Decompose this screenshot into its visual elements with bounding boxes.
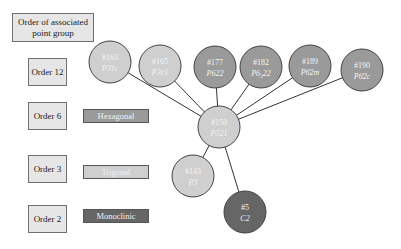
node-symbol: P3̄c1 (151, 68, 168, 77)
node-circle (194, 46, 236, 88)
node-symbol: P3̄1c (101, 64, 119, 73)
node-circle (139, 45, 181, 87)
node-number: #189 (302, 57, 318, 66)
nodes-layer: #163P3̄1c#165P3̄c1#177P622#182P6₃22#189P… (89, 41, 383, 233)
space-group-node: #165P3̄c1 (139, 45, 181, 87)
node-number: #5 (241, 203, 249, 212)
space-group-node: #190P6̄2c (341, 49, 383, 91)
node-number: #177 (207, 58, 223, 67)
space-group-node: #5C2 (224, 191, 266, 233)
space-group-node: #150P321 (198, 106, 240, 148)
space-group-node: #177P622 (194, 46, 236, 88)
node-number: #163 (102, 53, 118, 62)
node-circle (224, 191, 266, 233)
node-symbol: P6₃22 (250, 69, 271, 78)
space-group-graph: #163P3̄1c#165P3̄c1#177P622#182P6₃22#189P… (0, 0, 401, 249)
node-number: #190 (354, 61, 370, 70)
node-number: #143 (185, 167, 201, 176)
node-symbol: P3 (188, 178, 198, 187)
node-symbol: P6̄2m (300, 68, 320, 77)
node-number: #150 (211, 118, 227, 127)
node-symbol: P622 (206, 69, 224, 78)
node-circle (341, 49, 383, 91)
node-circle (289, 45, 331, 87)
node-circle (172, 155, 214, 197)
space-group-node: #182P6₃22 (240, 46, 282, 88)
node-number: #165 (152, 57, 168, 66)
node-symbol: P321 (210, 129, 228, 138)
node-symbol: P6̄2c (353, 72, 371, 81)
node-circle (198, 106, 240, 148)
node-circle (240, 46, 282, 88)
space-group-node: #143P3 (172, 155, 214, 197)
node-circle (89, 41, 131, 83)
node-symbol: C2 (240, 214, 249, 223)
node-number: #182 (253, 58, 269, 67)
space-group-node: #189P6̄2m (289, 45, 331, 87)
space-group-node: #163P3̄1c (89, 41, 131, 83)
